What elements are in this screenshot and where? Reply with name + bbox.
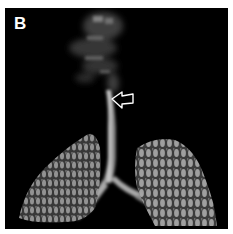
right-lung [135,139,217,226]
airway-lung-render [5,8,228,229]
ct-rendering-panel: B [5,8,228,229]
panel-label: B [14,15,26,32]
arrow-icon [112,92,133,108]
head-region [69,12,123,93]
left-lung [19,134,101,223]
